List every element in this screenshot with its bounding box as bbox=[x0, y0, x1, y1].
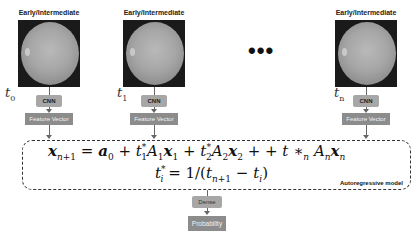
connector bbox=[154, 125, 155, 135]
stage-0-feature-vector-box: Feature Vector bbox=[25, 113, 73, 125]
stage-n-feature-vector-box: Feature Vector bbox=[342, 113, 390, 125]
equation-time-weight: t*i = 1/(tn+1 − ti) bbox=[155, 164, 268, 184]
autoregressive-model-label: Autoregressive model bbox=[340, 180, 403, 186]
stage-n-label: Early/Intermediate bbox=[331, 9, 401, 16]
connector bbox=[49, 87, 50, 95]
stage-0-label: Early/Intermediate bbox=[14, 9, 84, 16]
stage-1-feature-vector-box: Feature Vector bbox=[130, 113, 178, 125]
connector bbox=[154, 87, 155, 95]
arrow-icon bbox=[46, 135, 52, 139]
stage-1-time-label: t1 bbox=[117, 85, 127, 103]
arrow-icon bbox=[363, 135, 369, 139]
stage-0-fundus-image bbox=[18, 20, 80, 87]
connector bbox=[366, 125, 367, 135]
stage-1-cnn-box: CNN bbox=[141, 95, 167, 107]
connector bbox=[366, 87, 367, 95]
ellipsis-icon: ••• bbox=[248, 38, 274, 64]
stage-0-time-label: t0 bbox=[5, 85, 15, 103]
stage-n-fundus-image bbox=[335, 20, 397, 87]
dense-layer-box: Dense bbox=[192, 196, 222, 208]
stage-0-cnn-box: CNN bbox=[36, 95, 62, 107]
connector bbox=[49, 125, 50, 135]
equation-main: xn+1 = a0 + t*1A1x1 + t*2A2x2 + + t ∗n A… bbox=[48, 142, 345, 162]
stage-1-fundus-image bbox=[123, 20, 185, 87]
stage-n-cnn-box: CNN bbox=[353, 95, 379, 107]
arrow-icon bbox=[204, 211, 210, 215]
arrow-icon bbox=[151, 135, 157, 139]
probability-output-box: Probability bbox=[188, 216, 226, 231]
stage-1-label: Early/Intermediate bbox=[119, 9, 189, 16]
stage-n-time-label: tn bbox=[334, 85, 344, 103]
